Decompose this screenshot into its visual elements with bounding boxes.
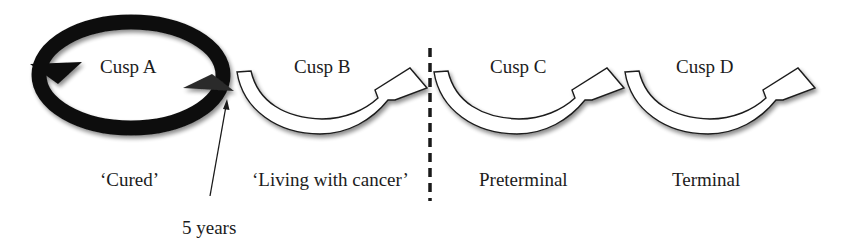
phase-label-preterminal: Preterminal bbox=[479, 170, 568, 189]
five-years-pointer-arrow-icon bbox=[210, 99, 230, 196]
cancer-cusp-diagram: Cusp A Cusp B Cusp C Cusp D ‘Cured’ ‘Liv… bbox=[0, 0, 846, 243]
phase-label-cured: ‘Cured’ bbox=[100, 170, 159, 189]
five-years-annotation: 5 years bbox=[182, 218, 236, 237]
cusp-c-arrow-icon bbox=[434, 68, 624, 134]
cusp-b-label: Cusp B bbox=[294, 57, 351, 76]
phase-label-terminal: Terminal bbox=[672, 170, 740, 189]
cusp-a-label: Cusp A bbox=[100, 57, 157, 76]
phase-label-living-with-cancer: ‘Living with cancer’ bbox=[252, 170, 409, 189]
cusp-c-label: Cusp C bbox=[490, 57, 547, 76]
cusp-b-arrow-icon bbox=[237, 68, 427, 134]
cusp-d-arrow-icon bbox=[625, 68, 815, 134]
diagram-graphics bbox=[0, 0, 846, 243]
cusp-d-label: Cusp D bbox=[676, 57, 734, 76]
